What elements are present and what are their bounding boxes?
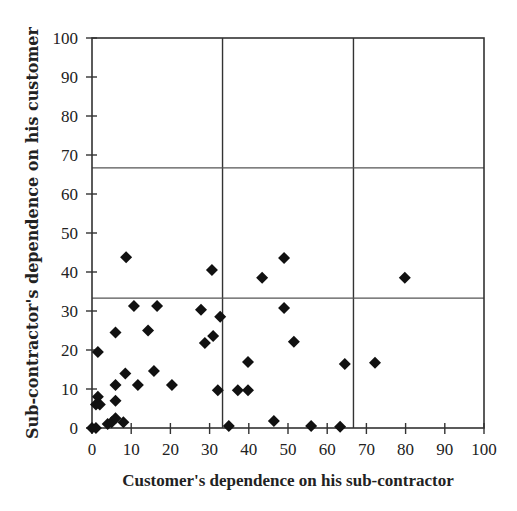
x-tick-label: 20 [162, 440, 179, 459]
data-point-diamond [242, 384, 254, 396]
x-tick-label: 100 [471, 440, 497, 459]
data-point-diamond [399, 272, 411, 284]
data-point-diamond [288, 336, 300, 348]
data-point-diamond [128, 300, 140, 312]
data-point-diamond [206, 264, 218, 276]
axis-ticks: 0102030405060708090100010203040506070809… [53, 29, 497, 459]
y-tick-label: 80 [61, 107, 78, 126]
data-point-diamond [278, 302, 290, 314]
data-point-diamond [132, 379, 144, 391]
data-point-diamond [142, 325, 154, 337]
data-point-diamond [207, 330, 219, 342]
data-point-diamond [339, 358, 351, 370]
x-tick-label: 80 [397, 440, 414, 459]
y-tick-label: 0 [70, 419, 79, 438]
y-tick-label: 90 [61, 68, 78, 87]
y-tick-label: 30 [61, 302, 78, 321]
data-point-diamond [110, 395, 122, 407]
data-point-diamond [120, 251, 132, 263]
data-point-diamond [110, 326, 122, 338]
x-axis-title: Customer's dependence on his sub-contrac… [122, 471, 454, 490]
data-point-diamond [305, 420, 317, 432]
y-tick-label: 70 [61, 146, 78, 165]
data-point-diamond [242, 356, 254, 368]
y-tick-label: 50 [61, 224, 78, 243]
data-point-diamond [151, 300, 163, 312]
x-tick-label: 50 [280, 440, 297, 459]
data-point-diamond [268, 415, 280, 427]
data-point-diamond [148, 365, 160, 377]
y-tick-label: 100 [53, 29, 79, 48]
x-tick-label: 10 [123, 440, 140, 459]
data-point-diamond [92, 346, 104, 358]
data-point-diamond [334, 421, 346, 433]
x-tick-label: 70 [358, 440, 375, 459]
x-tick-label: 60 [319, 440, 336, 459]
data-point-diamond [256, 272, 268, 284]
data-point-diamond [278, 252, 290, 264]
x-tick-label: 30 [201, 440, 218, 459]
data-point-diamond [195, 304, 207, 316]
data-point-diamond [166, 379, 178, 391]
x-tick-label: 90 [436, 440, 453, 459]
y-tick-label: 20 [61, 341, 78, 360]
chart-canvas: 0102030405060708090100010203040506070809… [0, 0, 517, 511]
data-point-diamond [223, 420, 235, 432]
data-point-diamond [369, 357, 381, 369]
data-point-diamond [119, 367, 131, 379]
data-point-diamond [214, 311, 226, 323]
data-point-diamond [110, 379, 122, 391]
y-axis-title: Sub-contractor's dependence on his custo… [23, 26, 42, 439]
data-point-diamond [199, 337, 211, 349]
x-tick-label: 0 [88, 440, 97, 459]
y-tick-label: 10 [61, 380, 78, 399]
x-tick-label: 40 [240, 440, 257, 459]
scatter-chart: 0102030405060708090100010203040506070809… [0, 0, 517, 511]
data-points [86, 251, 411, 434]
y-tick-label: 60 [61, 185, 78, 204]
y-tick-label: 40 [61, 263, 78, 282]
